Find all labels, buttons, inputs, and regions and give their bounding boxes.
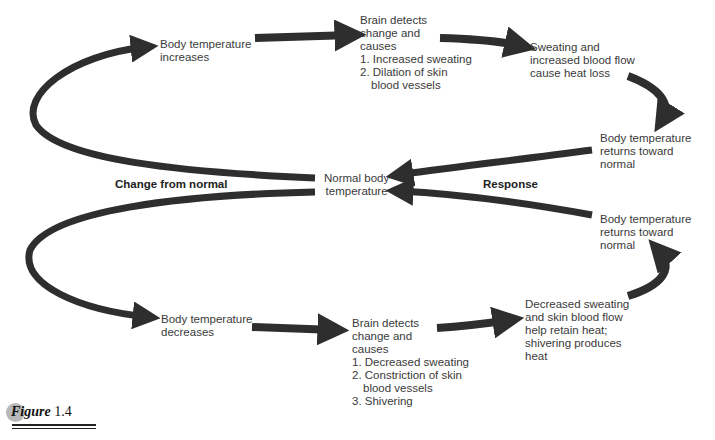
loop-arrow-upper-left [33, 47, 315, 178]
text-line: change and [352, 330, 469, 343]
text-line: blood vessels [360, 79, 472, 92]
lower-effector-label: Decreased sweating and skin blood flow h… [525, 298, 629, 363]
text-line: decreases [161, 326, 252, 339]
text-line: Body temperature [600, 132, 691, 145]
caption-rule [12, 428, 96, 429]
text-line: increased blood flow [530, 54, 635, 67]
text-line: 1. Increased sweating [360, 53, 472, 66]
caption-rule [12, 424, 96, 426]
text-line: 2. Constriction of skin [352, 369, 469, 382]
text-line: Body temperature [600, 213, 691, 226]
upper-effector-label: Sweating and increased blood flow cause … [530, 41, 635, 80]
text-line: Decreased sweating [525, 298, 629, 311]
text-line: Body temperature [160, 38, 251, 51]
arrow-decreases-to-brain [252, 327, 335, 330]
figure-number: 1.4 [54, 404, 72, 419]
upper-result-label: Body temperature returns toward normal [600, 132, 691, 171]
text-line: returns toward [600, 226, 691, 239]
text-line: blood vessels [352, 382, 469, 395]
text-line: heat [525, 350, 629, 363]
arrow-increases-to-brain [255, 35, 352, 38]
arrow-sweating-to-normal [628, 76, 665, 120]
center-setpoint-label: Normal body temperature [324, 172, 389, 198]
upper-stimulus-label: Body temperature increases [160, 38, 251, 64]
text-line: normal [600, 239, 691, 252]
response-label: Response [483, 178, 538, 190]
arrow-retain-heat-to-normal [628, 250, 666, 296]
text-line: causes [360, 40, 472, 53]
lower-control-center-label: Brain detects change and causes 1. Decre… [352, 317, 469, 408]
arrow-lower-response-to-center [398, 191, 592, 215]
loop-arrow-lower-left [29, 192, 315, 317]
text-line: causes [352, 343, 469, 356]
text-line: cause heat loss [530, 67, 635, 80]
figure-word: Figure [11, 404, 51, 419]
figure-caption: Figure 1.4 [6, 402, 96, 436]
text-line: normal [600, 158, 691, 171]
arrow-upper-response-to-center [398, 150, 592, 175]
text-line: 2. Dilation of skin [360, 66, 472, 79]
text-line: Sweating and [530, 41, 635, 54]
lower-stimulus-label: Body temperature decreases [161, 313, 252, 339]
text-line: increases [160, 51, 251, 64]
text-line: Brain detects [360, 14, 472, 27]
text-line: Normal body [324, 172, 389, 185]
text-line: 3. Shivering [352, 395, 469, 408]
text-line: Body temperature [161, 313, 252, 326]
lower-result-label: Body temperature returns toward normal [600, 213, 691, 252]
upper-control-center-label: Brain detects change and causes 1. Incre… [360, 14, 472, 92]
text-line: and skin blood flow [525, 311, 629, 324]
temperature-regulation-diagram: Body temperature increases Brain detects… [0, 0, 715, 440]
text-line: returns toward [600, 145, 691, 158]
text-line: Brain detects [352, 317, 469, 330]
text-line: 1. Decreased sweating [352, 356, 469, 369]
text-line: help retain heat; [525, 324, 629, 337]
change-from-normal-label: Change from normal [115, 178, 227, 190]
text-line: shivering produces [525, 337, 629, 350]
text-line: change and [360, 27, 472, 40]
text-line: temperature [324, 185, 389, 198]
figure-label: Figure 1.4 [11, 404, 72, 420]
